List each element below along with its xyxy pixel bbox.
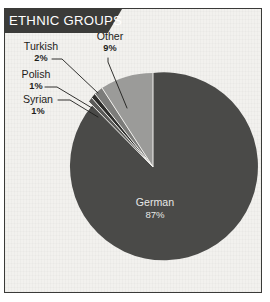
slice-label-german: German 87% [118, 196, 192, 221]
callout-polish-value: 1% [10, 81, 62, 92]
callout-other: Other 9% [88, 30, 132, 54]
callout-other-value: 9% [88, 43, 132, 54]
callout-turkish: Turkish 2% [14, 40, 68, 64]
slice-label-german-name: German [118, 196, 192, 208]
slice-label-german-value: 87% [118, 209, 192, 221]
callout-syrian-label: Syrian [12, 93, 64, 105]
ethnic-groups-chart-panel: ETHNIC GROUPS [0, 0, 270, 302]
callout-polish: Polish 1% [10, 68, 62, 92]
callout-turkish-label: Turkish [14, 40, 68, 52]
callout-turkish-value: 2% [14, 53, 68, 64]
callout-syrian: Syrian 1% [12, 93, 64, 117]
callout-polish-label: Polish [10, 68, 62, 80]
page-title: ETHNIC GROUPS [9, 12, 122, 30]
callout-syrian-value: 1% [12, 106, 64, 117]
